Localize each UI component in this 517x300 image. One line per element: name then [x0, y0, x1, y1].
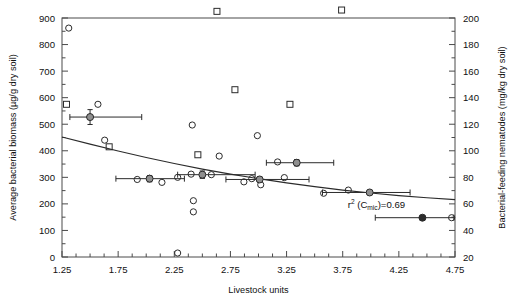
x-tick-label: 4.75 [446, 264, 465, 275]
y2-tick-label: 200 [463, 13, 479, 24]
series-3 [70, 110, 410, 196]
data-point-open-circle [66, 25, 72, 31]
data-point-open-circle [102, 137, 108, 143]
y-tick-label: 800 [39, 39, 55, 50]
data-point-open-square [287, 101, 293, 107]
x-axis: 1.251.752.252.753.253.754.254.75Livestoc… [53, 251, 465, 295]
series-1 [66, 25, 455, 256]
y-tick-label: 700 [39, 66, 55, 77]
x-tick-label: 3.75 [333, 264, 352, 275]
y-axis-left-title: Average bacterial biomass (µg/g dry soil… [8, 54, 18, 221]
data-point-open-circle [134, 176, 140, 182]
data-point-open-circle [95, 101, 101, 107]
figure-container: 1.251.752.252.753.253.754.254.75Livestoc… [0, 0, 517, 300]
x-tick-label: 1.75 [109, 264, 128, 275]
data-point-open-square [214, 8, 220, 14]
data-point-open-circle [159, 179, 165, 185]
y-tick-label: 200 [39, 198, 55, 209]
data-point-gray-circle [293, 159, 300, 166]
regression-curve [62, 137, 455, 200]
y-tick-label: 500 [39, 119, 55, 130]
data-point-gray-circle [87, 114, 94, 121]
y-axis-left: 0100200300400500600700800900Average bact… [8, 13, 68, 263]
x-tick-label: 3.25 [277, 264, 296, 275]
y2-tick-label: 40 [463, 225, 474, 236]
y-axis-right: 20406080100120140160180200Bacterial-feed… [449, 13, 507, 263]
y2-tick-label: 80 [463, 172, 474, 183]
data-point-open-square [232, 87, 238, 93]
data-point-gray-circle [256, 176, 263, 183]
y-tick-label: 100 [39, 225, 55, 236]
plot-frame [62, 18, 455, 257]
y2-tick-label: 140 [463, 92, 479, 103]
data-point-gray-circle [366, 189, 373, 196]
y-tick-label: 900 [39, 13, 55, 24]
r-squared-annotation: r2 (Cmic)=0.69 [348, 198, 405, 211]
data-point-open-circle [190, 198, 196, 204]
scatter-plot: 1.251.752.252.753.253.754.254.75Livestoc… [0, 0, 517, 300]
y-tick-label: 300 [39, 172, 55, 183]
data-point-open-circle [175, 250, 181, 256]
data-point-open-circle [254, 133, 260, 139]
x-tick-label: 1.25 [53, 264, 72, 275]
data-point-open-circle [188, 171, 194, 177]
y2-tick-label: 120 [463, 119, 479, 130]
y-tick-label: 400 [39, 145, 55, 156]
data-point-open-circle [189, 122, 195, 128]
x-tick-label: 2.75 [221, 264, 240, 275]
data-point-open-circle [321, 190, 327, 196]
y-tick-label: 0 [50, 252, 55, 263]
data-point-open-square [63, 101, 69, 107]
y2-tick-label: 160 [463, 66, 479, 77]
data-point-open-square [195, 152, 201, 158]
y-axis-right-title: Bacterial-feeding nematodes (mg/kg dry s… [497, 46, 507, 228]
data-point-open-circle [274, 159, 280, 165]
x-tick-label: 4.25 [390, 264, 409, 275]
series-4 [375, 214, 454, 221]
y2-tick-label: 60 [463, 198, 474, 209]
series-2 [63, 0, 441, 158]
data-point-open-circle [190, 209, 196, 215]
data-point-open-square [339, 7, 345, 13]
y2-tick-label: 180 [463, 39, 479, 50]
data-point-open-circle [216, 153, 222, 159]
data-point-open-circle [249, 176, 255, 182]
data-point-gray-circle [146, 175, 153, 182]
y2-tick-label: 20 [463, 252, 474, 263]
data-point-gray-circle [199, 171, 206, 178]
y2-tick-label: 100 [463, 145, 479, 156]
x-axis-title: Livestock units [228, 285, 289, 295]
y-tick-label: 600 [39, 92, 55, 103]
data-point-filled-circle [419, 214, 426, 221]
x-tick-label: 2.25 [165, 264, 184, 275]
